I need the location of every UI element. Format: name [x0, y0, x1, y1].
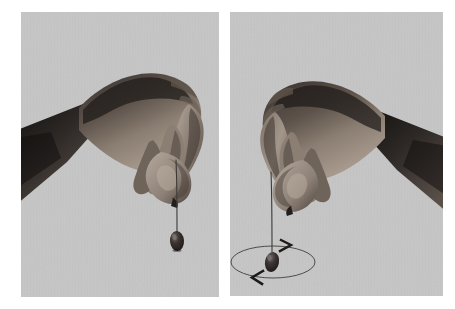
left-panel-artwork [21, 12, 219, 297]
right-panel-artwork [230, 12, 443, 296]
pendulum-figure: Pendulum held by hand: still versus circ… [0, 0, 455, 309]
bob-base-shadow [172, 249, 181, 252]
panel-right-circling-pendulum [230, 12, 443, 296]
panel-left-stationary-pendulum [21, 12, 219, 297]
